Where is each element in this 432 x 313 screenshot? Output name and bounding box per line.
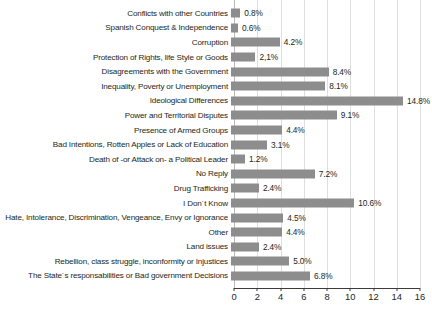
category-label: Disagreements with the Government bbox=[0, 67, 231, 76]
category-label: Presence of Armed Groups bbox=[0, 126, 231, 135]
category-label: Other bbox=[0, 228, 231, 237]
x-tick-label: 12 bbox=[368, 291, 378, 302]
category-label: Death of -or Attack on- a Political Lead… bbox=[0, 155, 231, 164]
bar bbox=[231, 23, 238, 32]
bar-row: Corruption4.2% bbox=[0, 35, 432, 50]
category-label: The State´s responsabilities or Bad gove… bbox=[0, 271, 231, 280]
x-tick-label: 4 bbox=[278, 291, 283, 302]
bar bbox=[231, 184, 259, 193]
category-label: Bad Intentions, Rotten Apples or Lack of… bbox=[0, 140, 231, 149]
bar-row: I Don´t Know10.6% bbox=[0, 196, 432, 211]
x-tick-label: 2 bbox=[255, 291, 260, 302]
bar bbox=[231, 96, 403, 105]
bar-value-label: 8.4% bbox=[333, 67, 352, 76]
bar bbox=[231, 169, 315, 178]
bar-row: Conflicts with other Countries0.8% bbox=[0, 6, 432, 21]
x-tick-label: 8 bbox=[324, 291, 329, 302]
bar bbox=[231, 82, 325, 91]
bar-row: Drug Trafficking2.4% bbox=[0, 181, 432, 196]
bar-value-label: 7.2% bbox=[319, 169, 338, 178]
bar bbox=[231, 199, 354, 208]
bar-track: 10.6% bbox=[231, 196, 432, 211]
bar-track: 5.0% bbox=[231, 254, 432, 269]
bar-row: Disagreements with the Government8.4% bbox=[0, 64, 432, 79]
bar bbox=[231, 53, 255, 62]
category-label: Conflicts with other Countries bbox=[0, 9, 231, 18]
bar-row: Hate, Intolerance, Discrimination, Venge… bbox=[0, 210, 432, 225]
category-label: I Don´t Know bbox=[0, 199, 231, 208]
bar-track: 2.4% bbox=[231, 240, 432, 255]
bar bbox=[231, 213, 283, 222]
x-tick-label: 14 bbox=[392, 291, 402, 302]
bar-track: 3.1% bbox=[231, 137, 432, 152]
category-label: Land issues bbox=[0, 242, 231, 251]
x-tick-label: 0 bbox=[231, 291, 236, 302]
category-label: Rebellion, class struggle, inconformity … bbox=[0, 257, 231, 266]
bar-value-label: 2,1% bbox=[259, 53, 278, 62]
bar-value-label: 2.4% bbox=[263, 242, 282, 251]
bar-value-label: 1.2% bbox=[249, 155, 268, 164]
bar-track: 8.4% bbox=[231, 64, 432, 79]
bar-track: 2,1% bbox=[231, 50, 432, 65]
category-label: Power and Territorial Disputes bbox=[0, 111, 231, 120]
category-label: Drug Trafficking bbox=[0, 184, 231, 193]
bar-track: 7.2% bbox=[231, 167, 432, 182]
bar-row: Inequality, Poverty or Unemployment8.1% bbox=[0, 79, 432, 94]
bar-track: 14.8% bbox=[231, 94, 432, 109]
bar-value-label: 4.4% bbox=[286, 228, 305, 237]
x-tick-label: 10 bbox=[345, 291, 355, 302]
bar-rows: Conflicts with other Countries0.8%Spanis… bbox=[0, 6, 432, 283]
bar-value-label: 4.4% bbox=[286, 126, 305, 135]
bar-track: 8.1% bbox=[231, 79, 432, 94]
category-label: Ideological Differences bbox=[0, 96, 231, 105]
bar-value-label: 3.1% bbox=[271, 140, 290, 149]
bar-track: 0.8% bbox=[231, 6, 432, 21]
bar-row: No Reply7.2% bbox=[0, 167, 432, 182]
bar-track: 1.2% bbox=[231, 152, 432, 167]
bar-value-label: 14.8% bbox=[407, 96, 430, 105]
bar-value-label: 0.6% bbox=[242, 23, 261, 32]
bar-row: Other4.4% bbox=[0, 225, 432, 240]
bar bbox=[231, 271, 310, 280]
bar-row: Death of -or Attack on- a Political Lead… bbox=[0, 152, 432, 167]
bar-track: 9.1% bbox=[231, 108, 432, 123]
bar-track: 4.5% bbox=[231, 210, 432, 225]
bar bbox=[231, 111, 337, 120]
horizontal-bar-chart: Conflicts with other Countries0.8%Spanis… bbox=[0, 0, 432, 313]
bar bbox=[231, 228, 282, 237]
category-label: Hate, Intolerance, Discrimination, Venge… bbox=[0, 213, 231, 222]
category-label: No Reply bbox=[0, 169, 231, 178]
bar-row: Bad Intentions, Rotten Apples or Lack of… bbox=[0, 137, 432, 152]
category-label: Inequality, Poverty or Unemployment bbox=[0, 82, 231, 91]
bar bbox=[231, 126, 282, 135]
bar-track: 4.4% bbox=[231, 225, 432, 240]
bar-row: Land issues2.4% bbox=[0, 240, 432, 255]
category-label: Corruption bbox=[0, 38, 231, 47]
bar bbox=[231, 67, 329, 76]
bar-value-label: 4.5% bbox=[287, 213, 306, 222]
bar bbox=[231, 140, 267, 149]
bar-track: 6.8% bbox=[231, 269, 432, 284]
bar-value-label: 10.6% bbox=[358, 199, 381, 208]
bar-value-label: 0.8% bbox=[244, 9, 263, 18]
bar-row: Spanish Conquest & Independence0.6% bbox=[0, 21, 432, 36]
category-label: Spanish Conquest & Independence bbox=[0, 23, 231, 32]
category-label: Protection of Rights, life Style or Good… bbox=[0, 53, 231, 62]
bar-value-label: 9.1% bbox=[341, 111, 360, 120]
bar-value-label: 5.0% bbox=[293, 257, 312, 266]
bar-value-label: 4.2% bbox=[284, 38, 303, 47]
bar-value-label: 6.8% bbox=[314, 271, 333, 280]
bar-row: The State´s responsabilities or Bad gove… bbox=[0, 269, 432, 284]
bar-row: Presence of Armed Groups4.4% bbox=[0, 123, 432, 138]
bar-row: Ideological Differences14.8% bbox=[0, 94, 432, 109]
bar-row: Rebellion, class struggle, inconformity … bbox=[0, 254, 432, 269]
x-tick-label: 16 bbox=[415, 291, 425, 302]
bar-track: 4.4% bbox=[231, 123, 432, 138]
bar bbox=[231, 257, 289, 266]
bar-track: 4.2% bbox=[231, 35, 432, 50]
bar-value-label: 8.1% bbox=[329, 82, 348, 91]
bar bbox=[231, 38, 280, 47]
bar bbox=[231, 9, 240, 18]
bar-track: 0.6% bbox=[231, 21, 432, 36]
bar-row: Power and Territorial Disputes9.1% bbox=[0, 108, 432, 123]
